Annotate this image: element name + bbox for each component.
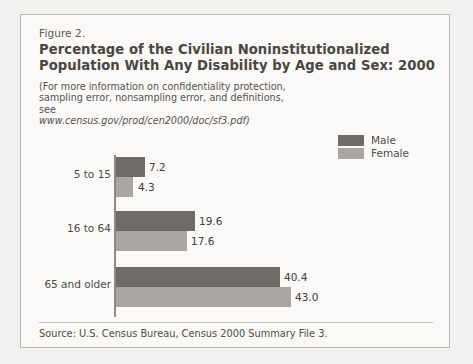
bar-value-male-5-to-15: 7.2 xyxy=(149,157,166,177)
category-label-65-and-older: 65 and older xyxy=(1,278,111,290)
source-note: Source: U.S. Census Bureau, Census 2000 … xyxy=(39,328,328,339)
bar-female-5-to-15[interactable] xyxy=(116,177,134,197)
bar-value-female-5-to-15: 4.3 xyxy=(138,177,155,197)
source-divider xyxy=(39,322,433,323)
category-label-5-to-15: 5 to 15 xyxy=(1,168,111,180)
bar-value-male-16-to-64: 19.6 xyxy=(199,211,222,231)
bar-female-16-to-64[interactable] xyxy=(116,231,188,251)
bar-value-female-65-and-older: 43.0 xyxy=(295,287,318,307)
bar-chart-plot: 5 to 15 7.2 4.3 16 to 64 19.6 17.6 65 an… xyxy=(21,15,451,349)
category-label-16-to-64: 16 to 64 xyxy=(1,222,111,234)
bar-female-65-and-older[interactable] xyxy=(116,287,291,307)
bar-value-female-16-to-64: 17.6 xyxy=(191,231,214,251)
bar-value-male-65-and-older: 40.4 xyxy=(284,267,307,287)
figure-card: Figure 2. Percentage of the Civilian Non… xyxy=(20,14,450,348)
bar-male-16-to-64[interactable] xyxy=(116,211,196,231)
bar-male-65-and-older[interactable] xyxy=(116,267,280,287)
bar-male-5-to-15[interactable] xyxy=(116,157,145,177)
